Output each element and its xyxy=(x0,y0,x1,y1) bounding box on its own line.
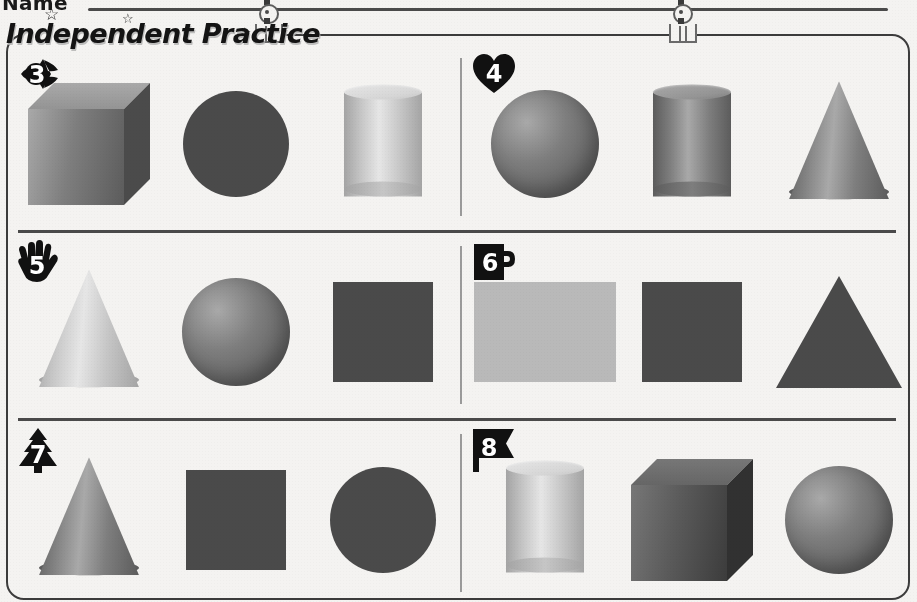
column-divider xyxy=(460,434,462,592)
shape-cylinder-icon xyxy=(653,85,731,204)
shape-option-cylinder-3d[interactable] xyxy=(472,440,618,600)
problem-8[interactable]: 8 xyxy=(464,422,912,602)
shape-option-circle-2d[interactable] xyxy=(310,440,456,600)
shape-option-cube-3d[interactable] xyxy=(619,440,765,600)
shape-cone-icon xyxy=(39,457,139,583)
row-divider xyxy=(18,230,896,233)
shape-option-sphere-3d[interactable] xyxy=(472,64,618,224)
shape-option-cone-3d[interactable] xyxy=(16,252,162,412)
problem-4[interactable]: 4 xyxy=(464,46,912,228)
shape-options xyxy=(472,252,912,412)
shape-cone-icon xyxy=(39,269,139,395)
shape-option-circle-2d[interactable] xyxy=(163,64,309,224)
column-divider xyxy=(460,58,462,216)
shape-cylinder-icon xyxy=(506,461,584,580)
problem-6[interactable]: 6 xyxy=(464,234,912,416)
shape-triangle-icon xyxy=(776,276,902,388)
column-divider xyxy=(460,246,462,404)
shape-cube-icon xyxy=(28,83,150,205)
row-divider xyxy=(18,418,896,421)
shape-option-square-2d[interactable] xyxy=(310,252,456,412)
shape-option-rectangle-2d[interactable] xyxy=(472,252,618,412)
shape-option-cylinder-3d[interactable] xyxy=(310,64,456,224)
shape-sphere-icon xyxy=(491,90,599,198)
shape-circle-icon xyxy=(330,467,436,573)
shape-option-sphere-3d[interactable] xyxy=(766,440,912,600)
shape-square-icon xyxy=(642,282,742,382)
shape-square-icon xyxy=(333,282,433,382)
shape-options xyxy=(16,64,456,224)
shape-sphere-icon xyxy=(785,466,893,574)
problem-7[interactable]: 7 xyxy=(8,422,456,602)
shape-option-cone-3d[interactable] xyxy=(766,64,912,224)
shape-option-square-2d[interactable] xyxy=(619,252,765,412)
page-title: Independent Practice xyxy=(6,18,320,49)
shape-cone-icon xyxy=(789,81,889,207)
shape-rectangle-icon xyxy=(474,282,616,382)
shape-options xyxy=(472,440,912,600)
binder-clip-icon xyxy=(664,0,698,42)
problem-3[interactable]: 3 xyxy=(8,46,456,228)
problem-5[interactable]: 5 xyxy=(8,234,456,416)
shape-options xyxy=(472,64,912,224)
shape-option-triangle-2d[interactable] xyxy=(766,252,912,412)
shape-square-icon xyxy=(186,470,286,570)
shape-option-cone-3d[interactable] xyxy=(16,440,162,600)
shape-sphere-icon xyxy=(182,278,290,386)
shape-cylinder-icon xyxy=(344,85,422,204)
shape-option-sphere-3d[interactable] xyxy=(163,252,309,412)
shape-option-cylinder-3d[interactable] xyxy=(619,64,765,224)
shape-options xyxy=(16,252,456,412)
shape-cube-icon xyxy=(631,459,753,581)
shape-option-square-2d[interactable] xyxy=(163,440,309,600)
problem-grid: 3 4 5 67 8 xyxy=(8,44,904,592)
shape-options xyxy=(16,440,456,600)
shape-option-cube-3d[interactable] xyxy=(16,64,162,224)
shape-circle-icon xyxy=(183,91,289,197)
name-write-line xyxy=(88,8,888,11)
